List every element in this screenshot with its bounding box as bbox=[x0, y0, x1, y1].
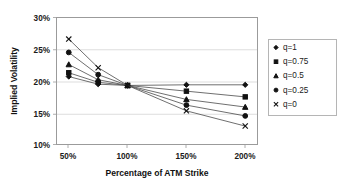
legend-label: q=0.5 bbox=[283, 71, 304, 80]
x-axis-ticks bbox=[68, 145, 245, 149]
chart-svg: 30% 25% 20% 15% 10% 50% 100% 150% 200% P… bbox=[0, 0, 342, 183]
circle-marker-icon bbox=[274, 88, 278, 92]
y-tick-label-20: 20% bbox=[34, 78, 51, 87]
y-axis-title: Implied Volatility bbox=[9, 47, 19, 115]
legend-label: q=0.25 bbox=[283, 86, 309, 95]
x-tick-label-50: 50% bbox=[60, 152, 77, 161]
x-tick-label-200: 200% bbox=[235, 152, 257, 161]
legend-label: q=0 bbox=[283, 100, 297, 109]
data-point-circle-75 bbox=[96, 72, 101, 77]
x-tick-label-150: 150% bbox=[176, 152, 198, 161]
square-marker-icon bbox=[274, 60, 278, 64]
legend-label: q=1 bbox=[283, 43, 297, 52]
y-tick-label-15: 15% bbox=[34, 110, 51, 119]
x-axis-title: Percentage of ATM Strike bbox=[105, 168, 208, 178]
y-tick-label-25: 25% bbox=[34, 46, 51, 55]
data-point-circle-200 bbox=[243, 114, 248, 119]
data-point-circle-50 bbox=[66, 50, 71, 55]
implied-volatility-chart: 30% 25% 20% 15% 10% 50% 100% 150% 200% P… bbox=[0, 0, 342, 183]
data-point-circle-150 bbox=[184, 103, 189, 108]
y-tick-label-30: 30% bbox=[34, 14, 51, 23]
x-tick-label-100: 100% bbox=[117, 152, 139, 161]
legend-label: q=0.75 bbox=[283, 57, 309, 66]
data-point-square-200 bbox=[243, 95, 247, 99]
y-tick-labels: 30% 25% 20% 15% 10% bbox=[34, 14, 51, 150]
data-point-square-150 bbox=[184, 89, 188, 93]
x-tick-labels: 50% 100% 150% 200% bbox=[60, 152, 256, 161]
y-tick-label-10: 10% bbox=[34, 141, 51, 150]
data-point-square-50 bbox=[67, 71, 71, 75]
